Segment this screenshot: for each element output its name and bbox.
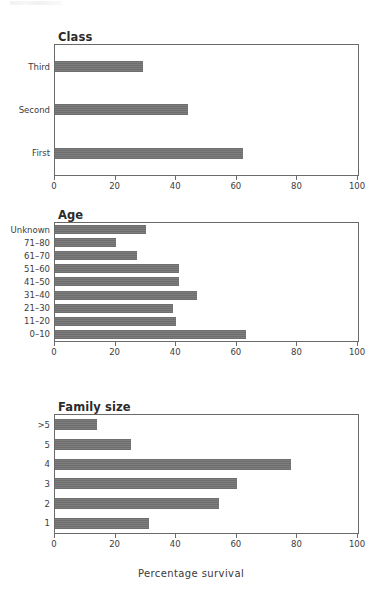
- category-label: Second: [19, 105, 50, 115]
- bar-row: 4: [55, 454, 358, 474]
- category-label: 0–10: [30, 329, 50, 339]
- x-tick-label: 20: [109, 539, 120, 549]
- bar-row: >5: [55, 415, 358, 435]
- bar: [55, 251, 137, 260]
- category-label: 31–40: [24, 290, 50, 300]
- x-tick-label: 0: [51, 181, 56, 191]
- bar-row: 0–10: [55, 328, 358, 341]
- x-tick-label: 40: [170, 347, 181, 357]
- chart-title-class: Class: [58, 30, 92, 44]
- bar: [55, 478, 237, 489]
- x-tick: [357, 534, 358, 538]
- x-tick-label: 40: [170, 539, 181, 549]
- x-tick-label: 20: [109, 181, 120, 191]
- x-tick: [357, 176, 358, 180]
- x-tick: [175, 176, 176, 180]
- category-label: 11–20: [24, 316, 50, 326]
- bar-row: Second: [55, 88, 358, 131]
- bar: [55, 264, 179, 273]
- category-label: 41–50: [24, 277, 50, 287]
- x-axis-age: 020406080100: [54, 342, 357, 360]
- bar: [55, 277, 179, 286]
- x-tick-label: 40: [170, 181, 181, 191]
- x-tick: [357, 342, 358, 346]
- bar: [55, 238, 116, 247]
- bar: [55, 439, 131, 450]
- x-tick: [175, 534, 176, 538]
- chart-title-family-size: Family size: [58, 400, 131, 414]
- bar: [55, 330, 246, 339]
- bar-row: 5: [55, 435, 358, 455]
- x-tick: [54, 534, 55, 538]
- x-axis-title: Percentage survival: [0, 568, 382, 579]
- bar: [55, 304, 173, 313]
- plot-area-class: ThirdSecondFirst: [54, 44, 359, 176]
- x-tick: [296, 534, 297, 538]
- scan-artifact: [10, 1, 62, 5]
- x-tick: [236, 534, 237, 538]
- chart-panel-family-size: Family size >554321 020406080100: [0, 400, 382, 570]
- x-tick-label: 0: [51, 347, 56, 357]
- bar-rows-age: Unknown71–8061–7051–6041–5031–4021–3011–…: [55, 223, 358, 341]
- category-label: >5: [37, 420, 50, 430]
- x-axis-family-size: 020406080100: [54, 534, 357, 552]
- x-tick: [115, 342, 116, 346]
- x-tick-label: 60: [230, 347, 241, 357]
- bar-row: 11–20: [55, 315, 358, 328]
- bar-row: 51–60: [55, 262, 358, 275]
- bar: [55, 225, 146, 234]
- figure-page: Class ThirdSecondFirst 020406080100 Age …: [0, 0, 382, 596]
- x-axis-class: 020406080100: [54, 176, 357, 194]
- bar: [55, 419, 97, 430]
- category-label: 4: [45, 459, 50, 469]
- chart-panel-class: Class ThirdSecondFirst 020406080100: [0, 30, 382, 190]
- x-tick-label: 80: [291, 181, 302, 191]
- category-label: First: [32, 148, 50, 158]
- x-tick-label: 100: [349, 539, 365, 549]
- chart-title-age: Age: [58, 208, 83, 222]
- category-label: Third: [28, 62, 50, 72]
- x-tick-label: 20: [109, 347, 120, 357]
- x-tick-label: 0: [51, 539, 56, 549]
- bar-rows-class: ThirdSecondFirst: [55, 45, 358, 175]
- category-label: 61–70: [24, 251, 50, 261]
- category-label: Unknown: [11, 225, 50, 235]
- plot-area-family-size: >554321: [54, 414, 359, 534]
- x-tick-label: 100: [349, 181, 365, 191]
- bar-rows-family-size: >554321: [55, 415, 358, 533]
- x-tick: [236, 176, 237, 180]
- bar-row: First: [55, 132, 358, 175]
- x-tick: [54, 176, 55, 180]
- bar-row: 3: [55, 474, 358, 494]
- category-label: 5: [45, 440, 50, 450]
- bar: [55, 498, 219, 509]
- bar-row: 1: [55, 513, 358, 533]
- x-tick: [296, 176, 297, 180]
- x-tick-label: 80: [291, 539, 302, 549]
- x-tick-label: 100: [349, 347, 365, 357]
- bar: [55, 148, 243, 159]
- x-tick: [115, 534, 116, 538]
- category-label: 1: [45, 518, 50, 528]
- bar: [55, 104, 188, 115]
- x-tick: [296, 342, 297, 346]
- x-tick: [175, 342, 176, 346]
- category-label: 3: [45, 479, 50, 489]
- bar: [55, 291, 197, 300]
- category-label: 71–80: [24, 238, 50, 248]
- bar: [55, 518, 149, 529]
- bar: [55, 317, 176, 326]
- category-label: 51–60: [24, 264, 50, 274]
- category-label: 21–30: [24, 303, 50, 313]
- x-tick-label: 60: [230, 181, 241, 191]
- bar-row: 61–70: [55, 249, 358, 262]
- x-tick: [115, 176, 116, 180]
- x-tick-label: 60: [230, 539, 241, 549]
- bar-row: 31–40: [55, 289, 358, 302]
- bar-row: 21–30: [55, 302, 358, 315]
- bar-row: 2: [55, 494, 358, 514]
- chart-panel-age: Age Unknown71–8061–7051–6041–5031–4021–3…: [0, 208, 382, 376]
- bar-row: 41–50: [55, 275, 358, 288]
- x-tick: [54, 342, 55, 346]
- bar: [55, 61, 143, 72]
